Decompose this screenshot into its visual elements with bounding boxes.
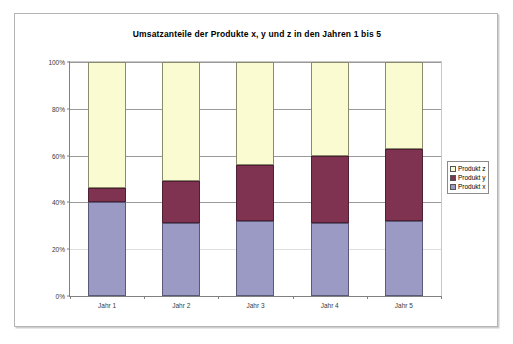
y-axis-label-60: 60% bbox=[52, 152, 65, 159]
y-axis-label-40: 40% bbox=[52, 199, 65, 206]
legend-swatch-icon bbox=[450, 184, 456, 190]
bar-segment-z[interactable] bbox=[162, 62, 200, 181]
legend-item-label: Produkt y bbox=[458, 173, 485, 182]
bar-stack[interactable] bbox=[162, 62, 200, 296]
y-axis-label-100: 100% bbox=[48, 59, 65, 66]
bar-group[interactable]: Jahr 1 bbox=[70, 62, 144, 296]
bar-segment-x[interactable] bbox=[88, 202, 126, 296]
y-axis-label-80: 80% bbox=[52, 105, 65, 112]
bar-segment-z[interactable] bbox=[385, 62, 423, 149]
bar-group[interactable]: Jahr 4 bbox=[293, 62, 367, 296]
x-tick-mark bbox=[441, 296, 442, 299]
chart-title: Umsatzanteile der Produkte x, y und z in… bbox=[15, 29, 499, 39]
legend-swatch-icon bbox=[450, 166, 456, 172]
legend-swatch-icon bbox=[450, 175, 456, 181]
bar-segment-x[interactable] bbox=[162, 223, 200, 296]
bar-group[interactable]: Jahr 2 bbox=[144, 62, 218, 296]
x-tick-mark bbox=[293, 296, 294, 299]
x-axis-label: Jahr 5 bbox=[395, 302, 413, 309]
chart-frame[interactable]: Umsatzanteile der Produkte x, y und z in… bbox=[14, 13, 498, 327]
bar-segment-y[interactable] bbox=[311, 156, 349, 224]
x-axis-label: Jahr 3 bbox=[246, 302, 264, 309]
x-axis-label: Jahr 1 bbox=[98, 302, 116, 309]
bar-group[interactable]: Jahr 5 bbox=[367, 62, 441, 296]
bar-segment-z[interactable] bbox=[236, 62, 274, 165]
legend-item-label: Produkt z bbox=[458, 164, 485, 173]
x-tick-mark bbox=[70, 296, 71, 299]
bar-segment-y[interactable] bbox=[162, 181, 200, 223]
bar-segment-z[interactable] bbox=[88, 62, 126, 188]
bar-segment-x[interactable] bbox=[311, 223, 349, 296]
bar-segment-x[interactable] bbox=[236, 221, 274, 296]
legend-item[interactable]: Produkt x bbox=[450, 182, 485, 191]
legend-item[interactable]: Produkt z bbox=[450, 164, 485, 173]
legend-item-label: Produkt x bbox=[458, 182, 485, 191]
x-axis-label: Jahr 2 bbox=[172, 302, 190, 309]
x-tick-mark bbox=[367, 296, 368, 299]
bar-segment-z[interactable] bbox=[311, 62, 349, 156]
plot-area: 0%20%40%60%80%100%Jahr 1Jahr 2Jahr 3Jahr… bbox=[69, 61, 442, 297]
y-axis-label-20: 20% bbox=[52, 246, 65, 253]
bar-segment-x[interactable] bbox=[385, 221, 423, 296]
bar-stack[interactable] bbox=[385, 62, 423, 296]
legend-item[interactable]: Produkt y bbox=[450, 173, 485, 182]
chart-legend[interactable]: Produkt zProdukt yProdukt x bbox=[447, 161, 489, 194]
x-axis-label: Jahr 4 bbox=[321, 302, 339, 309]
y-axis-label-0: 0% bbox=[56, 293, 65, 300]
bar-segment-y[interactable] bbox=[385, 149, 423, 222]
bar-stack[interactable] bbox=[236, 62, 274, 296]
bar-stack[interactable] bbox=[311, 62, 349, 296]
bar-segment-y[interactable] bbox=[88, 188, 126, 202]
bar-stack[interactable] bbox=[88, 62, 126, 296]
x-tick-mark bbox=[144, 296, 145, 299]
bar-segment-y[interactable] bbox=[236, 165, 274, 221]
x-tick-mark bbox=[218, 296, 219, 299]
bar-group[interactable]: Jahr 3 bbox=[218, 62, 292, 296]
